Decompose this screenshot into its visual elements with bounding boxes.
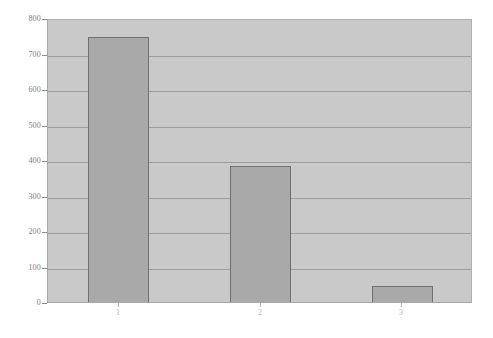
y-axis-tick	[42, 161, 47, 162]
bar-2[interactable]	[230, 166, 291, 303]
x-axis-tick	[118, 303, 119, 307]
y-axis-tick-label: 400	[0, 157, 41, 165]
y-axis-tick-label-text: 700	[1, 51, 41, 59]
y-axis-tick-label-text: 400	[1, 157, 41, 165]
y-axis-tick-label-text: 600	[1, 86, 41, 94]
y-axis-tick-label: 0	[0, 299, 41, 307]
y-axis-tick	[42, 19, 47, 20]
x-axis-tick	[260, 303, 261, 307]
y-axis-tick-label: 700	[0, 51, 41, 59]
y-axis-tick	[42, 90, 47, 91]
y-axis-tick-label-text: 0	[1, 299, 41, 307]
y-axis-tick-label-text: 500	[1, 122, 41, 130]
bar-1[interactable]	[88, 37, 149, 303]
y-axis-tick-label: 600	[0, 86, 41, 94]
y-axis-line	[47, 19, 48, 303]
y-axis-tick-label-text: 100	[1, 264, 41, 272]
bar-3[interactable]	[372, 286, 433, 303]
x-axis-tick-label: 3	[381, 308, 421, 317]
y-axis-tick	[42, 268, 47, 269]
y-axis-tick	[42, 126, 47, 127]
y-axis-tick	[42, 232, 47, 233]
y-axis-tick-label: 100	[0, 264, 41, 272]
y-axis-tick-label-text: 800	[1, 15, 41, 23]
y-axis-tick-label: 800	[0, 15, 41, 23]
y-axis-tick-label: 300	[0, 193, 41, 201]
y-axis-tick-label-text: 200	[1, 228, 41, 236]
y-axis-tick-label: 500	[0, 122, 41, 130]
x-axis-tick	[401, 303, 402, 307]
plot-area	[47, 19, 472, 303]
y-axis-tick-label-text: 300	[1, 193, 41, 201]
x-axis-tick-label: 1	[98, 308, 138, 317]
y-axis-tick	[42, 197, 47, 198]
bar-chart-figure: 0100200300400500600700800 123	[0, 0, 493, 338]
x-axis-tick-label: 2	[240, 308, 280, 317]
y-axis-tick	[42, 55, 47, 56]
y-axis-tick	[42, 303, 47, 304]
y-axis-tick-label: 200	[0, 228, 41, 236]
